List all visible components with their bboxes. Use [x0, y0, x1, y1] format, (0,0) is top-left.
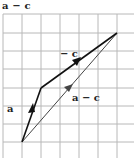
arrowhead-icon — [28, 103, 35, 113]
label-a: a — [7, 103, 14, 114]
vector-diagram: a − c a − c — [0, 0, 134, 158]
vector-a — [22, 88, 41, 142]
label-a-minus-c: a − c — [72, 92, 100, 103]
label-minus-c: − c — [60, 48, 78, 59]
